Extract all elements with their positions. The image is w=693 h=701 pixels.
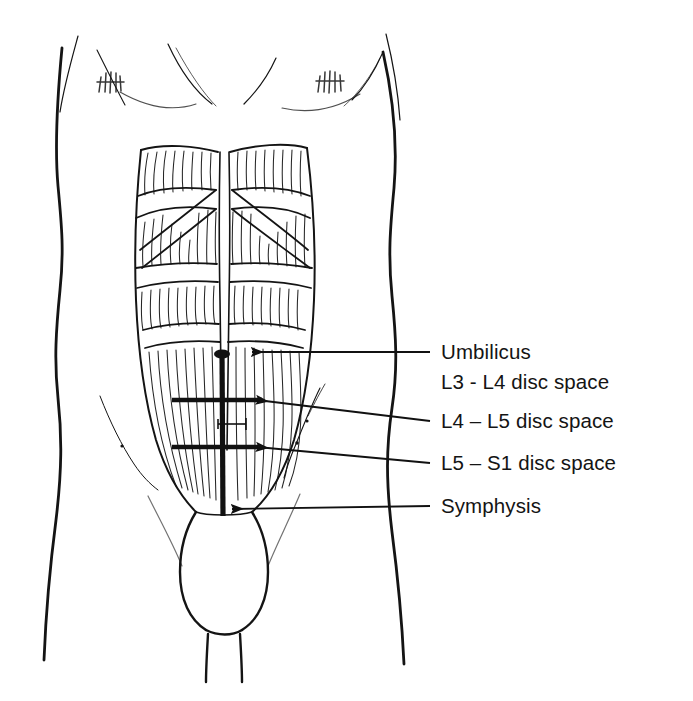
anatomical-drawing [0, 0, 693, 701]
leader-line-symphysis [232, 506, 430, 509]
surgical-markings [172, 350, 262, 517]
label-symphysis: Symphysis [441, 494, 541, 518]
label-umbilicus: Umbilicus [441, 340, 531, 364]
label-l3-l4-disc-space: L3 - L4 disc space [441, 370, 609, 394]
figure-canvas: Umbilicus L3 - L4 disc space L4 – L5 dis… [0, 0, 693, 701]
label-l4-l5-disc-space: L4 – L5 disc space [441, 409, 614, 433]
leader-line-l5-s1 [257, 447, 430, 463]
label-l5-s1-disc-space: L5 – S1 disc space [441, 451, 616, 475]
